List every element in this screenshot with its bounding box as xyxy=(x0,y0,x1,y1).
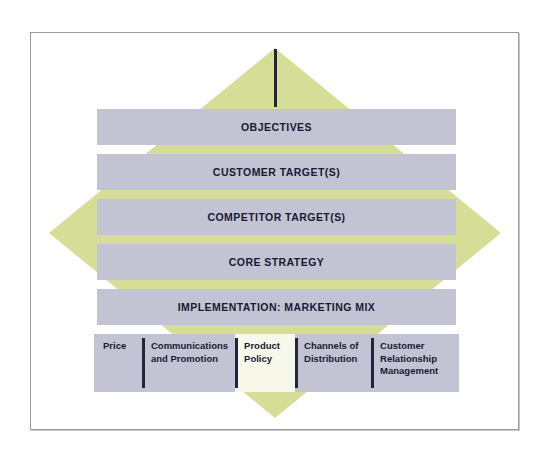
mix-cell-customer-relationship-management: Customer Relationship Management xyxy=(371,334,459,392)
bar-competitor-targets: COMPETITOR TARGET(S) xyxy=(97,199,456,235)
mix-cell-channels-of-distribution: Channels of Distribution xyxy=(295,334,371,392)
bar-label-core-strategy: CORE STRATEGY xyxy=(229,256,325,268)
mix-label-product-policy: Product Policy xyxy=(244,340,288,365)
bar-implementation-marketing-mix: IMPLEMENTATION: MARKETING MIX xyxy=(97,289,456,325)
bar-objectives: OBJECTIVES xyxy=(97,109,456,145)
bar-label-customer-targets: CUSTOMER TARGET(S) xyxy=(213,166,340,178)
mix-label-communications-and-promotion: Communications and Promotion xyxy=(151,340,228,365)
diagram-canvas: OBJECTIVES CUSTOMER TARGET(S) COMPETITOR… xyxy=(31,33,518,429)
mix-label-customer-relationship-management: Customer Relationship Management xyxy=(380,340,452,378)
mix-cell-communications-and-promotion: Communications and Promotion xyxy=(142,334,235,392)
center-spine-top xyxy=(274,49,277,107)
mix-cell-product-policy: Product Policy xyxy=(235,334,295,392)
screenshot-root: OBJECTIVES CUSTOMER TARGET(S) COMPETITOR… xyxy=(0,0,544,453)
marketing-mix-row: Price Communications and Promotion Produ… xyxy=(94,334,459,392)
mix-cell-price: Price xyxy=(94,334,142,392)
bar-customer-targets: CUSTOMER TARGET(S) xyxy=(97,154,456,190)
mix-label-channels-of-distribution: Channels of Distribution xyxy=(304,340,364,365)
diagram-frame: OBJECTIVES CUSTOMER TARGET(S) COMPETITOR… xyxy=(30,32,519,430)
mix-label-price: Price xyxy=(103,340,126,353)
bar-label-objectives: OBJECTIVES xyxy=(241,121,312,133)
bar-label-competitor-targets: COMPETITOR TARGET(S) xyxy=(207,211,345,223)
bar-label-implementation-marketing-mix: IMPLEMENTATION: MARKETING MIX xyxy=(178,301,376,313)
bar-core-strategy: CORE STRATEGY xyxy=(97,244,456,280)
